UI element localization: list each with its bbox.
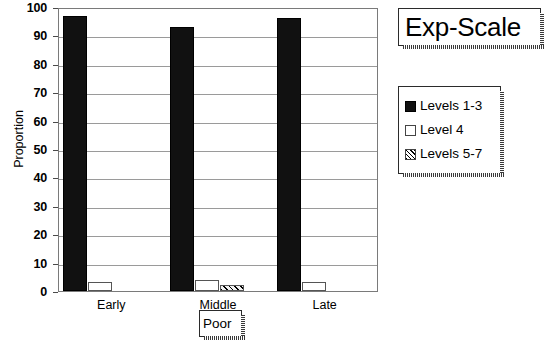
y-tick-label: 90	[33, 30, 47, 42]
legend-swatch-diagonal-hatch	[405, 149, 416, 160]
poor-label-box: Poor	[199, 310, 242, 337]
gridlines	[59, 9, 377, 291]
legend-item: Levels 5-7	[405, 142, 500, 166]
y-tick-label: 0	[40, 286, 47, 298]
legend-item: Level 4	[405, 118, 500, 142]
y-tick-label: 100	[27, 2, 47, 14]
bar	[220, 285, 244, 291]
bar	[195, 280, 219, 291]
plot-area	[58, 8, 378, 292]
y-axis: 0102030405060708090100	[0, 0, 54, 345]
legend: Levels 1-3Level 4Levels 5-7	[398, 86, 501, 174]
gridline	[59, 265, 377, 266]
y-tick-mark	[53, 292, 58, 293]
legend-swatch-solid-black	[405, 101, 416, 112]
gridline	[59, 94, 377, 95]
y-axis-title: Proportion	[12, 84, 26, 194]
bar	[63, 16, 87, 291]
title-text: Exp-Scale	[399, 13, 521, 41]
gridline	[59, 37, 377, 38]
legend-shadow-bottom	[403, 173, 504, 177]
gridline	[59, 179, 377, 180]
y-tick-label: 40	[33, 172, 47, 184]
y-tick-label: 50	[33, 144, 47, 156]
bar	[170, 27, 194, 291]
gridline	[59, 66, 377, 67]
y-tick-label: 80	[33, 59, 47, 71]
legend-swatch-open-white	[405, 125, 416, 136]
bar	[277, 18, 301, 291]
legend-label: Levels 5-7	[420, 147, 482, 161]
legend-shadow-right	[500, 91, 504, 177]
poor-label-text: Poor	[200, 317, 232, 331]
y-tick-label: 10	[33, 258, 47, 270]
title-box: Exp-Scale	[398, 8, 541, 46]
y-tick-label: 30	[33, 201, 47, 213]
gridline	[59, 236, 377, 237]
bar	[88, 282, 112, 291]
legend-label: Levels 1-3	[420, 99, 482, 113]
bar	[302, 282, 326, 291]
gridline	[59, 123, 377, 124]
x-category-label: Early	[61, 298, 161, 312]
y-tick-label: 20	[33, 229, 47, 241]
poor-box-shadow-bottom	[204, 336, 245, 340]
gridline	[59, 208, 377, 209]
y-tick-label: 60	[33, 116, 47, 128]
y-tick-label: 70	[33, 87, 47, 99]
legend-label: Level 4	[420, 123, 464, 137]
x-category-label: Late	[275, 298, 375, 312]
legend-items: Levels 1-3Level 4Levels 5-7	[405, 94, 500, 166]
title-box-shadow-bottom	[403, 45, 544, 49]
gridline	[59, 151, 377, 152]
title-box-shadow-right	[540, 13, 544, 49]
legend-item: Levels 1-3	[405, 94, 500, 118]
